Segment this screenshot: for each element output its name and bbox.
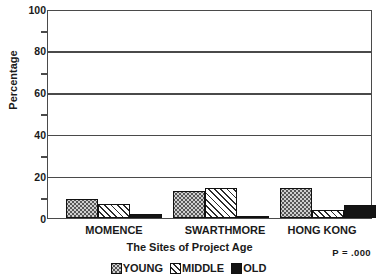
legend-item-old: OLD: [231, 262, 266, 274]
bar-swarthmore-middle: [205, 188, 237, 218]
x-tick-label-swarthmore: SWARTHMORE: [165, 224, 285, 236]
legend-item-young: YOUNG: [111, 262, 163, 274]
legend-label-young: YOUNG: [123, 262, 163, 274]
bar-swarthmore-old: [237, 216, 269, 218]
bar-momence-middle: [98, 204, 130, 218]
y-tick-label-0: 0: [16, 214, 46, 225]
gridline-20: [48, 177, 371, 179]
bar-hongkong-middle: [312, 210, 344, 218]
bar-momence-old: [130, 214, 162, 218]
y-tick-label-100: 100: [16, 5, 46, 16]
bar-chart: Percentage 100 80 60 40 20 0 MOMENCE SWA…: [0, 0, 377, 280]
y-tick-label-20: 20: [16, 172, 46, 183]
legend-swatch-middle-icon: [170, 263, 181, 274]
bar-hongkong-old: [344, 205, 376, 218]
x-tick-label-hong-kong: HONG KONG: [272, 224, 372, 236]
x-tick-label-momence: MOMENCE: [65, 224, 163, 236]
legend-swatch-young-icon: [111, 263, 122, 274]
y-tick-label-80: 80: [16, 46, 46, 57]
legend-swatch-old-icon: [231, 263, 242, 274]
bar-hongkong-young: [280, 188, 312, 218]
gridline-60: [48, 93, 371, 95]
gridline-40: [48, 135, 371, 137]
y-tick-label-40: 40: [16, 130, 46, 141]
x-axis-title: The Sites of Project Age: [47, 241, 332, 253]
gridline-80: [48, 51, 371, 53]
legend-item-middle: MIDDLE: [170, 262, 224, 274]
y-tick-label-60: 60: [16, 88, 46, 99]
plot-area: [47, 10, 372, 219]
legend-label-old: OLD: [243, 262, 266, 274]
legend-label-middle: MIDDLE: [182, 262, 224, 274]
legend: YOUNG MIDDLE OLD: [0, 262, 377, 274]
p-value-annotation: P = .000: [332, 247, 371, 258]
bar-momence-young: [66, 199, 98, 218]
bar-swarthmore-young: [173, 191, 205, 218]
